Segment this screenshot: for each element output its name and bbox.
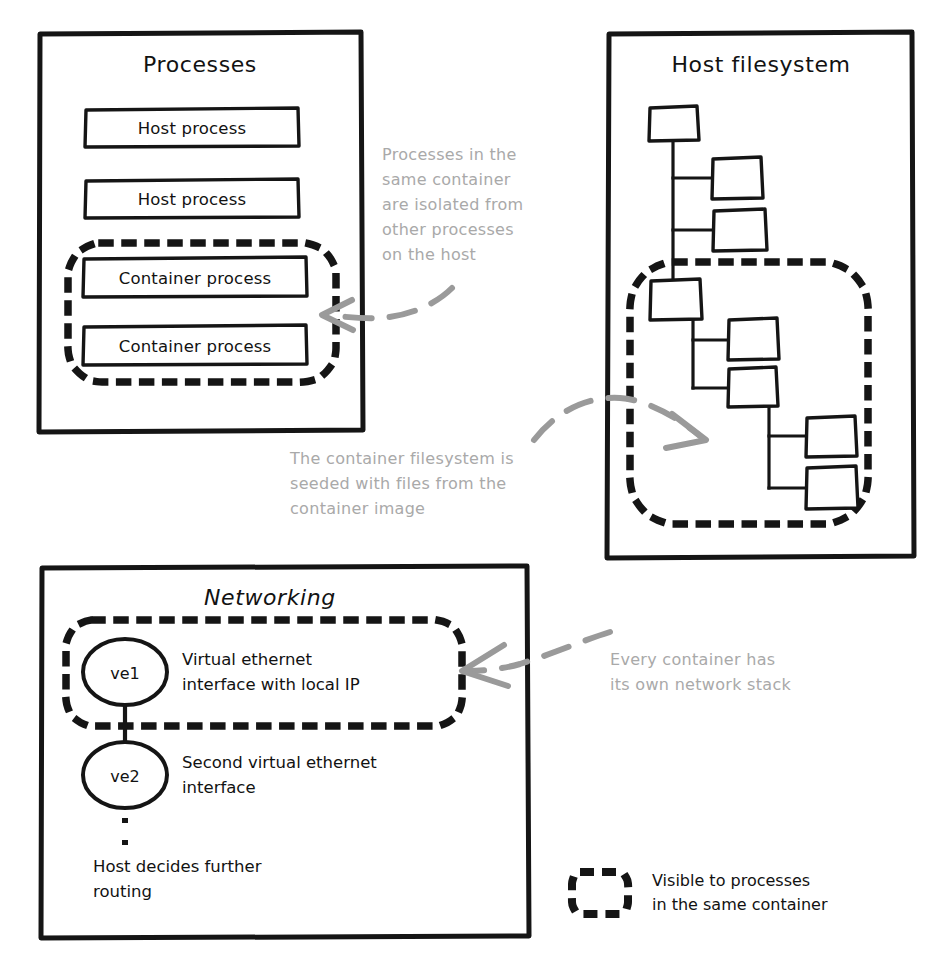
- panel-host-filesystem: Host filesystem: [607, 32, 914, 558]
- annotation-processes-line-4: other processes: [382, 220, 514, 239]
- annotation-processes-line-2: same container: [382, 170, 511, 189]
- network-node-ve2-label: ve2: [110, 767, 140, 786]
- network-node-ve1-note-line-2: interface with local IP: [182, 675, 360, 694]
- annotation-networking-line-2: its own network stack: [610, 675, 792, 694]
- process-box-host-1-label: Host process: [138, 119, 247, 138]
- network-node-ve2-note-line-2: interface: [182, 778, 256, 797]
- filesystem-node-7: [806, 416, 857, 457]
- legend-label-line-1: Visible to processes: [652, 871, 810, 890]
- process-box-container-1-label: Container process: [119, 269, 272, 288]
- annotation-filesystem-line-1: The container filesystem is: [289, 449, 514, 468]
- filesystem-node-2: [712, 157, 763, 199]
- network-node-ve2: ve2: [83, 742, 167, 808]
- panel-processes-title: Processes: [143, 52, 257, 77]
- diagram-root: Processes Host process Host process Cont…: [0, 0, 942, 968]
- panel-networking: Networking ve1 Virtual ethernet interfac…: [41, 566, 529, 938]
- process-box-host-1: Host process: [85, 108, 299, 147]
- annotation-processes-line-1: Processes in the: [382, 145, 517, 164]
- process-box-container-1: Container process: [83, 257, 307, 297]
- filesystem-node-6: [728, 367, 778, 407]
- panel-processes: Processes Host process Host process Cont…: [39, 32, 363, 432]
- annotation-filesystem-line-3: container image: [290, 499, 425, 518]
- annotation-processes-line-3: are isolated from: [382, 195, 523, 214]
- filesystem-node-3: [713, 209, 767, 251]
- host-routing-note-line-1: Host decides further: [93, 857, 262, 876]
- process-box-host-2-label: Host process: [138, 190, 247, 209]
- annotation-networking-line-1: Every container has: [610, 650, 775, 669]
- diagram-canvas: Processes Host process Host process Cont…: [0, 0, 942, 968]
- filesystem-node-5: [728, 318, 779, 360]
- process-box-container-2-label: Container process: [119, 337, 272, 356]
- legend-swatch-dotted-rectangle-icon: [572, 872, 628, 914]
- network-node-ve1-label: ve1: [110, 664, 140, 683]
- legend: Visible to processes in the same contain…: [572, 871, 828, 914]
- filesystem-node-1: [649, 106, 699, 141]
- panel-networking-title: Networking: [204, 585, 336, 610]
- filesystem-node-4: [650, 279, 702, 320]
- legend-label-line-2: in the same container: [652, 895, 828, 914]
- network-node-ve1: ve1: [83, 639, 167, 705]
- process-box-host-2: Host process: [85, 179, 299, 218]
- host-routing-note-line-2: routing: [93, 882, 152, 901]
- process-box-container-2: Container process: [83, 325, 307, 365]
- network-node-ve2-note-line-1: Second virtual ethernet: [182, 753, 377, 772]
- annotation-processes-line-5: on the host: [382, 245, 476, 264]
- network-node-ve1-note-line-1: Virtual ethernet: [182, 650, 312, 669]
- filesystem-node-8: [806, 466, 858, 509]
- panel-host-filesystem-title: Host filesystem: [671, 52, 850, 77]
- annotation-filesystem-line-2: seeded with files from the: [290, 474, 506, 493]
- panel-processes-border: [39, 32, 363, 432]
